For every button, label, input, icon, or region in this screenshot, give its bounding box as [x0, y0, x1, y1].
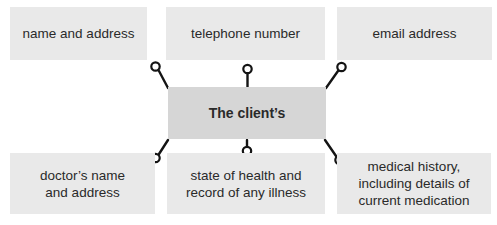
- node-name-and-address: name and address: [10, 7, 147, 60]
- node-label: doctor’s name and address: [40, 167, 125, 201]
- node-label: telephone number: [191, 25, 300, 42]
- node-telephone-number: telephone number: [166, 7, 325, 60]
- node-medical-history: medical history, including details of cu…: [337, 153, 491, 214]
- node-label: name and address: [23, 25, 135, 42]
- node-state-of-health: state of health and record of any illnes…: [167, 153, 325, 214]
- center-node-the-clients: The client’s: [168, 87, 326, 139]
- connector-circle-icon: [151, 62, 159, 70]
- connector-top-left: [151, 62, 168, 88]
- node-label: state of health and record of any illnes…: [186, 167, 306, 201]
- connector-top-right: [326, 63, 346, 88]
- node-email-address: email address: [337, 7, 492, 60]
- connector-circle-icon: [337, 63, 345, 71]
- node-doctors-name: doctor’s name and address: [10, 153, 155, 214]
- node-label: medical history, including details of cu…: [358, 158, 469, 209]
- connector-circle-icon: [243, 65, 251, 73]
- node-label: email address: [372, 25, 456, 42]
- diagram-canvas: name and address telephone number email …: [0, 0, 497, 225]
- connector-top-center: [243, 65, 251, 87]
- center-node-label: The client’s: [209, 105, 286, 121]
